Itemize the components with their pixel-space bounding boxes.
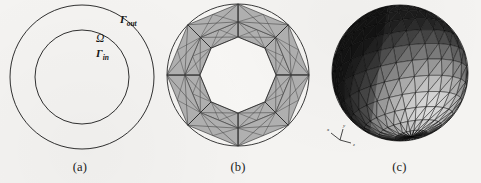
panel-a: Γout Ω Γin (a) <box>0 0 160 183</box>
caption-b: (b) <box>157 160 319 175</box>
label-omega: Ω <box>96 32 104 44</box>
sphere-facets <box>332 5 468 141</box>
annular-mesh-svg <box>157 0 319 152</box>
svg-text:x: x <box>326 127 330 132</box>
inner-circle <box>35 30 129 124</box>
label-gamma-out: Γout <box>120 13 137 28</box>
axis-indicator: xyz <box>326 123 355 147</box>
figure-container: Γout Ω Γin (a) (b) xyz (c) <box>0 0 481 183</box>
caption-c: (c) <box>318 160 481 175</box>
panel-c: xyz (c) <box>318 0 481 183</box>
label-gamma-in: Γin <box>96 47 109 62</box>
svg-text:y: y <box>342 123 346 128</box>
svg-text:z: z <box>352 142 355 147</box>
sphere-mesh-svg: xyz <box>318 0 481 152</box>
caption-a: (a) <box>0 160 160 175</box>
panel-b: (b) <box>157 0 319 183</box>
mesh-elements <box>167 4 309 146</box>
